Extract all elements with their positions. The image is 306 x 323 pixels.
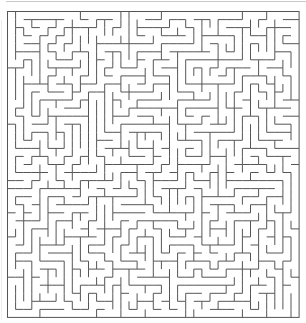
- maze-wall-segments: [8, 12, 300, 318]
- maze-walls: [8, 12, 300, 318]
- maze-grid: [0, 0, 306, 323]
